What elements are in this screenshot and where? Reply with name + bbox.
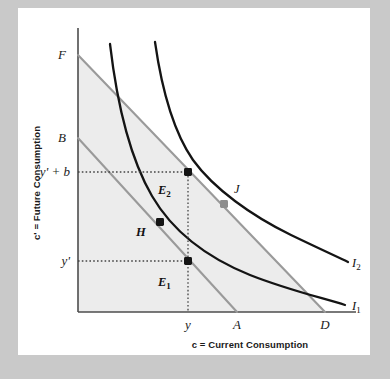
marker-h	[156, 218, 164, 226]
y-tick-label-yprime-plus-b: y' + b	[38, 164, 71, 179]
marker-j	[220, 200, 228, 208]
point-label-h: H	[135, 225, 147, 239]
point-label-j: J	[234, 182, 241, 196]
x-tick-label-D: D	[319, 317, 330, 332]
y-axis-title: c' = Future Consumption	[31, 126, 42, 240]
curve-label-i1-sub: 1	[356, 305, 361, 315]
figure-card: F B y' + b y' y A D E2 E1 H J I2 I1 c' =…	[18, 8, 370, 355]
point-label-e2-sub: 2	[166, 189, 171, 199]
marker-e1	[184, 257, 192, 265]
point-label-e2-text: E	[157, 183, 166, 197]
point-label-e1-sub: 1	[166, 281, 171, 291]
point-label-e1-text: E	[157, 275, 166, 289]
x-tick-label-A: A	[232, 317, 241, 332]
curve-label-i1: I1	[351, 299, 361, 315]
x-axis-title: c = Current Consumption	[192, 339, 309, 350]
curve-label-i2: I2	[351, 256, 361, 272]
curve-label-i2-sub: 2	[356, 262, 361, 272]
y-tick-label-F: F	[57, 47, 67, 62]
economics-chart: F B y' + b y' y A D E2 E1 H J I2 I1 c' =…	[18, 8, 370, 355]
x-tick-label-y: y	[183, 317, 191, 332]
y-tick-label-yprime: y'	[59, 253, 70, 268]
marker-e2	[184, 168, 192, 176]
y-tick-label-B: B	[58, 130, 66, 145]
